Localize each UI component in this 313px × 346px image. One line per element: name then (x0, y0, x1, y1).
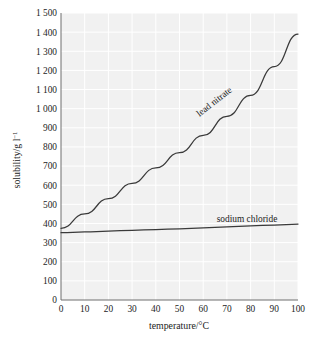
x-tick-label: 100 (291, 304, 305, 314)
y-tick-label: 200 (43, 257, 57, 267)
y-tick-label: 1 100 (36, 85, 57, 95)
y-tick-label: 700 (43, 161, 57, 171)
x-tick-label: 20 (104, 304, 114, 314)
y-tick-label: 800 (43, 142, 57, 152)
x-axis-title: temperature/°C (149, 320, 209, 331)
x-tick-label: 30 (127, 304, 137, 314)
x-tick-label: 10 (80, 304, 90, 314)
y-tick-label: 300 (43, 238, 57, 248)
x-tick-label: 40 (151, 304, 161, 314)
y-axis-title: solubility/g l−1 (11, 132, 22, 189)
x-tick-label: 90 (270, 304, 280, 314)
y-tick-label: 500 (43, 200, 57, 210)
x-tick-label: 0 (59, 304, 64, 314)
x-tick-label: 80 (246, 304, 256, 314)
y-axis-tick-labels: 01002003004005006007008009001 0001 1001 … (36, 8, 57, 305)
y-tick-label: 1 400 (36, 28, 57, 38)
y-axis-title-group: solubility/g l−1 (11, 132, 22, 189)
y-tick-label: 400 (43, 219, 57, 229)
chart-figure: 01002003004005006007008009001 0001 1001 … (0, 0, 313, 346)
y-tick-label: 1 500 (36, 8, 57, 18)
x-axis-tick-labels: 0102030405060708090100 (59, 304, 306, 314)
y-tick-label: 1 300 (36, 47, 57, 57)
y-tick-label: 1 200 (36, 66, 57, 76)
x-tick-label: 50 (175, 304, 185, 314)
y-tick-label: 100 (43, 276, 57, 286)
y-tick-label: 600 (43, 181, 57, 191)
x-tick-label: 60 (199, 304, 209, 314)
y-tick-label: 0 (52, 295, 57, 305)
y-tick-label: 1 000 (36, 104, 57, 114)
chart-canvas: 01002003004005006007008009001 0001 1001 … (0, 0, 313, 346)
y-axis-title-base: solubility/g l (11, 138, 22, 188)
series-label-sodium-chloride: sodium chloride (217, 214, 278, 224)
y-axis-title-exponent: −1 (11, 132, 18, 139)
y-tick-label: 900 (43, 123, 57, 133)
x-tick-label: 70 (222, 304, 232, 314)
